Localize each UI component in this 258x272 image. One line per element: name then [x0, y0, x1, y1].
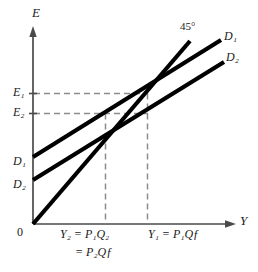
- origin-label: 0: [17, 226, 23, 238]
- x-annotation-y2-line2: = P₂Qƒ: [75, 246, 112, 258]
- curve-label-left-d2-text: D₂: [13, 177, 26, 191]
- y-axis-label: E: [32, 6, 40, 19]
- economics-line-diagram: E Y 0 E₁ E₂ D₁ D₂ D₁ D₂ 45° Y₂ = P₁Q₂ = …: [0, 0, 258, 272]
- curve-line-d2: [33, 62, 224, 180]
- y-tick-label-e2-text: E₂: [13, 105, 25, 119]
- curve-label-left-d2: D₂: [13, 178, 26, 190]
- y-tick-label-e2: E₂: [13, 106, 25, 118]
- curve-label-right-d1-text: D₁: [224, 29, 237, 43]
- x-annotation-y1-line1: Y₁ = P₁Qƒ: [148, 228, 199, 240]
- y-axis-arrowhead: [29, 26, 36, 37]
- diagram-canvas: [0, 0, 258, 272]
- curve-label-right-d1: D₁: [224, 30, 237, 42]
- reference-line-label: 45°: [180, 21, 195, 32]
- x-annotation-y2-line1: Y₂ = P₁Q₂: [60, 228, 109, 240]
- x-axis-label: Y: [240, 214, 247, 227]
- curves-group: [33, 40, 224, 224]
- curve-label-left-d1: D₁: [13, 155, 26, 167]
- curve-label-right-d2-text: D₂: [226, 50, 239, 64]
- axes-group: [29, 26, 236, 228]
- curve-label-left-d1-text: D₁: [13, 154, 26, 168]
- x-axis-arrowhead: [225, 220, 236, 227]
- y-tick-label-e1: E₁: [13, 86, 25, 98]
- curve-label-right-d2: D₂: [226, 51, 239, 63]
- y-tick-label-e1-text: E₁: [13, 85, 25, 99]
- curve-line-d1: [33, 40, 221, 157]
